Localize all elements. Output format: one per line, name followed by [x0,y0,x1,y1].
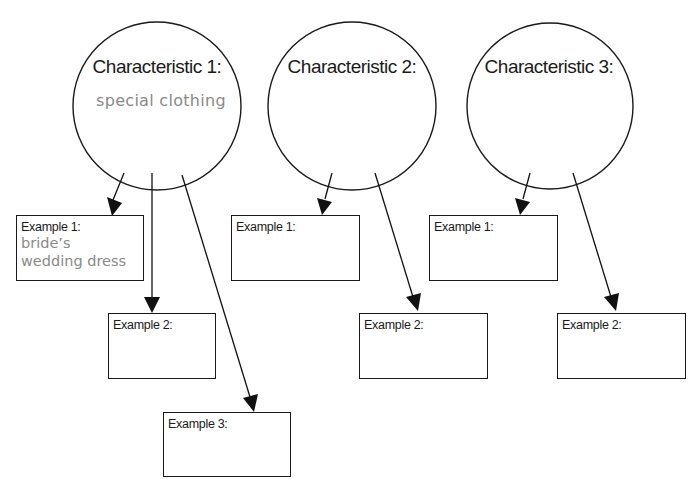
characteristic-3-circle [467,23,633,189]
arrow-c3-ex1 [515,173,530,215]
characteristic-3-title: Characteristic 3: [464,56,634,78]
c1-example-2-label: Example 2: [113,318,211,332]
c3-example-1-label: Example 1: [434,220,553,234]
characteristic-1-answer: special clothing [96,92,226,109]
c1-example-3-box[interactable]: Example 3: [163,412,291,477]
arrow-c2-ex1 [317,173,332,215]
c1-example-1-answer-line1: bride’s [21,235,139,252]
characteristic-2-circle [268,22,436,190]
c1-example-1-answer-line2: wedding dress [21,253,139,270]
c3-example-2-box[interactable]: Example 2: [557,313,686,379]
c2-example-1-label: Example 1: [236,220,355,234]
c1-example-3-label: Example 3: [168,417,286,431]
c3-example-1-box[interactable]: Example 1: [429,215,558,281]
c2-example-1-box[interactable]: Example 1: [231,215,360,281]
c1-example-2-box[interactable]: Example 2: [108,313,216,379]
characteristic-2-title: Characteristic 2: [267,56,437,78]
c1-example-1-label: Example 1: [21,220,139,234]
c2-example-2-box[interactable]: Example 2: [359,313,488,379]
arrow-c2-ex2 [375,173,421,311]
c2-example-2-label: Example 2: [364,318,483,332]
c1-example-1-box[interactable]: Example 1: bride’s wedding dress [16,215,144,281]
characteristic-1-title: Characteristic 1: [72,56,242,78]
c3-example-2-label: Example 2: [562,318,681,332]
arrow-c3-ex2 [573,173,619,311]
arrow-c1-ex2 [144,173,160,313]
